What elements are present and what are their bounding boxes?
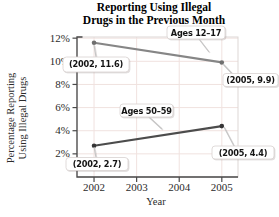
callout-tail: [149, 117, 162, 129]
x-axis-label: Year: [146, 196, 166, 207]
callout-label: (2002, 11.6): [69, 59, 123, 69]
x-tick-label: 2005: [211, 181, 234, 193]
callout-label: (2005, 9.9): [226, 75, 275, 85]
y-axis-label-line2: Using Illegal Drugs: [17, 77, 28, 160]
callout-label: Ages 12–17: [171, 28, 222, 38]
y-tick-label: 4%: [55, 124, 70, 136]
data-point: [220, 124, 225, 129]
callout-tail: [223, 64, 232, 74]
y-tick-label: 8%: [55, 78, 70, 90]
callout-2002-11-6: (2002, 11.6): [63, 45, 129, 72]
callout-2005-9-9: (2005, 9.9): [223, 64, 278, 87]
chart-title-line2: Drugs in the Previous Month: [83, 14, 226, 27]
callout-2002-2-7: (2002, 2.7): [66, 147, 128, 171]
callout-ages-12-17: Ages 12–17: [167, 26, 225, 52]
callout-tail: [224, 127, 234, 146]
x-tick-label: 2002: [83, 181, 105, 193]
chart-title-line1: Reporting Using Illegal: [97, 1, 211, 14]
callout-2005-4-4: (2005, 4.4): [212, 127, 274, 159]
callout-tail: [199, 39, 209, 52]
callout-label: Ages 50–59: [121, 106, 172, 116]
callout-ages-50-59: Ages 50–59: [120, 104, 173, 129]
line-chart-svg: Reporting Using Illegal Drugs in the Pre…: [0, 0, 279, 217]
chart-figure: Reporting Using Illegal Drugs in the Pre…: [0, 0, 279, 217]
x-tick-label: 2003: [126, 181, 149, 193]
y-tick-label: 6%: [55, 101, 70, 113]
callout-label: (2002, 2.7): [73, 159, 122, 169]
y-tick-label: 12%: [50, 32, 70, 44]
callout-label: (2005, 4.4): [219, 148, 268, 158]
x-tick-label: 2004: [168, 181, 191, 193]
series-line: [94, 126, 222, 146]
y-axis-label-line1: Percentage Reporting: [5, 72, 16, 163]
data-point: [92, 40, 97, 45]
